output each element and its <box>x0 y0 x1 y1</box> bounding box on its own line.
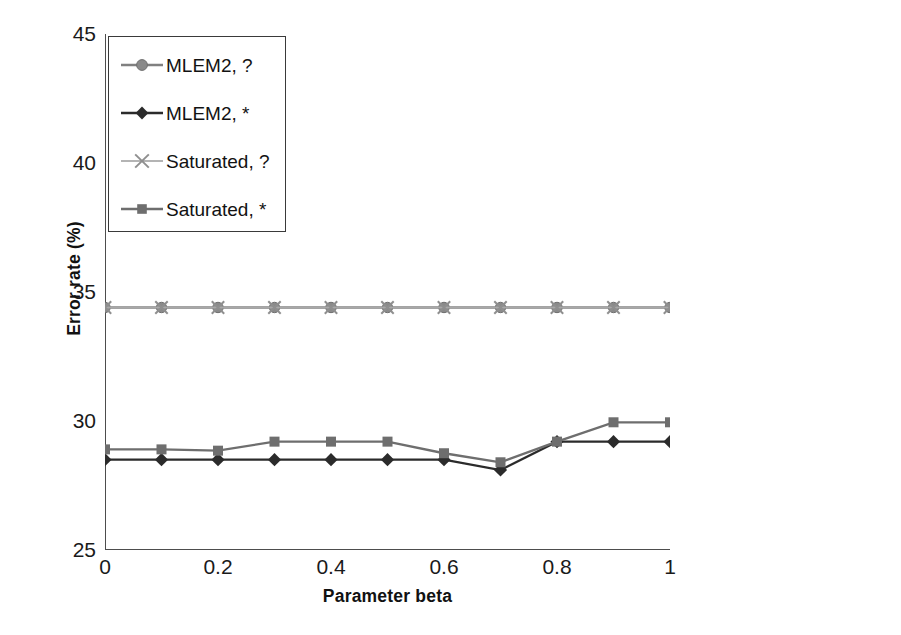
chart-figure: 45 40 35 30 25 Error rate (%) 0 0.2 0.4 … <box>0 0 901 635</box>
y-tick-label: 45 <box>32 23 96 44</box>
data-point <box>381 453 394 466</box>
x-tick-label: 0.2 <box>183 556 253 577</box>
data-point <box>105 444 110 454</box>
data-point <box>105 453 112 466</box>
data-point <box>383 437 393 447</box>
x-tick-label: 1 <box>635 556 705 577</box>
x-axis-title: Parameter beta <box>105 586 670 607</box>
cross-marker-icon <box>119 151 165 171</box>
square-marker-icon <box>119 199 165 219</box>
legend-item-label: Saturated, * <box>166 200 266 219</box>
circle-marker-icon <box>119 55 165 75</box>
data-point <box>607 435 620 448</box>
data-point <box>270 437 280 447</box>
data-point <box>324 453 337 466</box>
x-tick-label: 0.6 <box>409 556 479 577</box>
legend-item-label: Saturated, ? <box>166 152 270 171</box>
data-point <box>439 448 449 458</box>
data-point <box>155 453 168 466</box>
legend-item[interactable]: MLEM2, * <box>109 89 285 137</box>
data-point <box>665 417 670 427</box>
data-point <box>268 453 281 466</box>
data-point <box>663 435 670 448</box>
legend: MLEM2, ? MLEM2, * Saturated, ? Saturated… <box>108 36 286 232</box>
x-tick-label: 0.8 <box>522 556 592 577</box>
y-tick-label: 30 <box>32 410 96 431</box>
data-point <box>552 437 562 447</box>
y-axis-tick-labels: 45 40 35 30 25 <box>28 0 96 635</box>
legend-item-label: MLEM2, ? <box>166 56 253 75</box>
legend-item[interactable]: Saturated, ? <box>109 137 285 185</box>
diamond-marker-icon <box>119 103 165 123</box>
data-point <box>326 437 336 447</box>
x-tick-label: 0.4 <box>296 556 366 577</box>
data-point <box>213 446 223 456</box>
legend-item-label: MLEM2, * <box>166 104 249 123</box>
data-point <box>157 444 167 454</box>
legend-item[interactable]: MLEM2, ? <box>109 41 285 89</box>
y-axis-title: Error rate (%) <box>64 159 85 399</box>
data-point <box>609 417 619 427</box>
legend-item[interactable]: Saturated, * <box>109 185 285 233</box>
x-tick-label: 0 <box>70 556 140 577</box>
data-point <box>496 457 506 467</box>
